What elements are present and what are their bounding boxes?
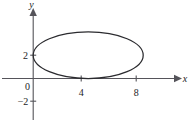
ellipse-curve <box>33 32 143 79</box>
x-tick-label-0: 0 <box>25 81 30 92</box>
y-tick-label-minus-2: −2 <box>18 96 29 107</box>
x-tick-label-4: 4 <box>79 87 84 98</box>
chart-figure: 0 4 8 2 −2 x y <box>0 0 192 122</box>
x-tick-label-8: 8 <box>134 87 139 98</box>
x-axis-arrow-icon <box>174 75 182 82</box>
y-axis-label: y <box>28 0 34 10</box>
ellipse-plot: 0 4 8 2 −2 x y <box>0 0 192 122</box>
y-tick-label-2: 2 <box>23 50 28 61</box>
x-axis-label: x <box>182 73 188 84</box>
